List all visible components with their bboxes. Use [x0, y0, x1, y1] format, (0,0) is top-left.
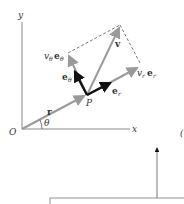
svg-text:θ: θ	[60, 55, 64, 62]
transverse-unit-vector	[75, 72, 87, 95]
angle-label: θ	[44, 118, 50, 128]
transverse-unit-label: e θ	[62, 72, 72, 83]
radial-component-label: v r e r	[137, 68, 157, 79]
angle-arc	[40, 120, 42, 129]
radial-unit-label: e r	[112, 86, 122, 97]
polar-velocity-diagram: y x O P r θ v e r e θ v r e r v θ e θ (	[0, 0, 184, 204]
origin-label: O	[9, 127, 17, 137]
svg-text:r: r	[153, 72, 157, 79]
svg-text:r: r	[142, 72, 146, 79]
position-vector-label: r	[47, 107, 52, 117]
x-axis-label: x	[132, 124, 137, 134]
svg-text:θ: θ	[68, 76, 72, 83]
transverse-component-label: v θ e θ	[44, 51, 64, 62]
svg-text:r: r	[118, 90, 122, 97]
y-axis-label: y	[17, 10, 24, 20]
svg-text:θ: θ	[49, 55, 53, 62]
callout-box	[50, 198, 184, 204]
position-vector-r	[22, 96, 84, 129]
dashed-line-top	[68, 25, 120, 53]
partial-right-label: (	[180, 128, 184, 138]
point-p-label: P	[85, 98, 93, 108]
velocity-label: v	[114, 39, 121, 49]
dashed-line-right	[120, 25, 140, 63]
